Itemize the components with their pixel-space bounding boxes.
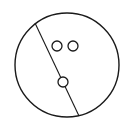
outer-circle — [15, 13, 119, 117]
diagram-canvas — [0, 0, 121, 127]
small-circle-on-line — [58, 77, 68, 87]
divider-line — [35, 23, 79, 116]
small-circle-right — [68, 41, 78, 51]
small-circle-left — [52, 41, 62, 51]
